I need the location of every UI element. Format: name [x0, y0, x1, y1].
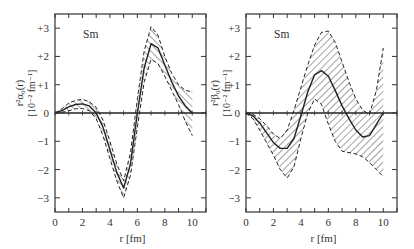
element-annotation: Sm	[274, 28, 289, 40]
element-annotation: Sm	[83, 28, 98, 40]
y-tick-label: 0	[44, 107, 50, 119]
y-tick-label: −1	[228, 135, 240, 147]
y-tick-label: −2	[228, 164, 240, 176]
y-axis-label: r²α₀(r)	[14, 79, 26, 106]
x-tick-label: 4	[298, 216, 304, 228]
y-axis-units: [10⁻² fm⁻¹]	[26, 70, 37, 117]
x-tick-label: 0	[243, 216, 249, 228]
y-tick-label: 0	[235, 107, 241, 119]
y-tick-label: +2	[228, 50, 240, 62]
y-tick-label: −3	[37, 192, 49, 204]
x-tick-label: 0	[52, 216, 58, 228]
x-tick-label: 4	[107, 216, 113, 228]
figure: 0246810+3+2+10−1−2−3r [fm]r²α₀(r)[10⁻² f…	[0, 0, 414, 249]
x-tick-label: 10	[378, 216, 390, 228]
x-tick-label: 6	[135, 216, 141, 228]
uncertainty-band	[246, 31, 383, 178]
y-tick-label: −2	[37, 164, 49, 176]
y-tick-label: +1	[37, 79, 49, 91]
y-tick-label: −3	[228, 192, 240, 204]
x-tick-label: 2	[80, 216, 86, 228]
y-tick-label: +2	[37, 50, 49, 62]
chart-panel-left: 0246810+3+2+10−1−2−3r [fm]r²α₀(r)[10⁻² f…	[14, 14, 206, 244]
y-tick-label: −1	[37, 135, 49, 147]
x-tick-label: 6	[326, 216, 332, 228]
x-tick-label: 2	[271, 216, 277, 228]
x-axis-label: r [fm]	[120, 232, 146, 244]
x-tick-label: 10	[187, 216, 199, 228]
x-tick-label: 8	[353, 216, 359, 228]
y-axis-units: [10⁻² fm⁻¹]	[221, 70, 232, 117]
chart-panel-right: 0246810+3+2+10−1−2−3r [fm]r²β₀(r)[10⁻² f…	[209, 14, 397, 244]
central-curve	[55, 44, 192, 188]
x-tick-label: 8	[162, 216, 168, 228]
y-tick-label: +3	[228, 22, 240, 34]
y-tick-label: +3	[37, 22, 49, 34]
y-axis-label: r²β₀(r)	[209, 79, 221, 106]
x-axis-label: r [fm]	[311, 232, 337, 244]
